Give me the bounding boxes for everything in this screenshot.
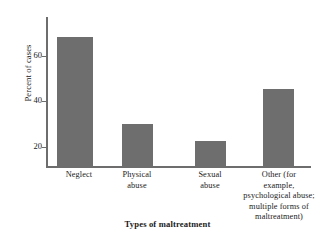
x-axis-line: [46, 166, 311, 168]
category-label-other: Other (for example, psychological abuse;…: [222, 170, 335, 223]
category-label-line: psychological abuse;: [222, 191, 335, 202]
bar-neglect: [57, 37, 93, 166]
bar-physical-abuse: [122, 124, 153, 166]
y-axis-line: [46, 17, 48, 167]
y-tick-label-20: 20: [22, 141, 42, 152]
category-label-line: Other (for: [222, 170, 335, 181]
plot-area: 60 40 20: [46, 17, 311, 167]
category-label-physical-abuse: Physical abuse: [97, 170, 177, 191]
bar-other: [263, 89, 294, 166]
category-label-line: example,: [222, 181, 335, 192]
bar-chart: Percent of cases 60 40 20 Neglect Physic…: [0, 0, 335, 238]
x-axis-title: Types of maltreatment: [0, 219, 335, 229]
y-tick-mark-40: [42, 101, 48, 102]
y-tick-mark-20: [42, 147, 48, 148]
category-label-line: multiple forms of: [222, 202, 335, 213]
category-label-line: Physical: [97, 170, 177, 181]
bar-sexual-abuse: [195, 141, 226, 166]
category-label-line: abuse: [97, 181, 177, 192]
y-tick-mark-60: [42, 56, 48, 57]
y-tick-label-60: 60: [22, 50, 42, 61]
y-tick-label-40: 40: [22, 95, 42, 106]
